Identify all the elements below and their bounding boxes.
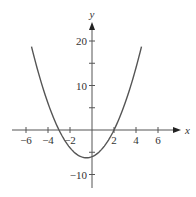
axes — [12, 22, 181, 188]
x-tick-label: −6 — [20, 134, 32, 146]
x-axis-arrow-icon — [173, 127, 181, 133]
y-tick-label: −10 — [70, 169, 88, 181]
y-tick-label: 10 — [76, 80, 88, 92]
x-tick-label: −2 — [64, 134, 76, 146]
x-tick-label: 6 — [155, 134, 161, 146]
plot-area: −6−4−22462010−10 x y — [0, 0, 196, 197]
y-tick-label: 20 — [76, 35, 88, 47]
y-axis-label: y — [89, 8, 95, 20]
x-tick-label: −4 — [42, 134, 54, 146]
y-axis-arrow-icon — [89, 22, 95, 30]
x-axis-label: x — [184, 124, 190, 136]
x-tick-label: 2 — [111, 134, 117, 146]
ticks: −6−4−22462010−10 — [20, 35, 161, 181]
x-tick-label: 4 — [133, 134, 139, 146]
parabola-chart: −6−4−22462010−10 x y — [0, 0, 196, 197]
